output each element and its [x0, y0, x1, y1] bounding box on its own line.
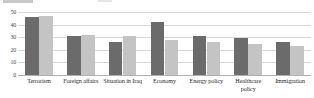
bar-group	[144, 12, 186, 75]
bar	[123, 36, 137, 75]
bar	[109, 42, 123, 75]
bar-group	[185, 12, 227, 75]
x-axis-category-label: Terrorism	[18, 77, 60, 85]
bar	[165, 40, 179, 75]
y-axis-tick-label: 40	[10, 22, 16, 28]
legend-swatch-cropped	[3, 0, 33, 3]
gridline: 0	[18, 75, 311, 76]
bar-group	[60, 12, 102, 75]
bar	[39, 16, 53, 75]
y-axis-tick-label: 20	[10, 47, 16, 53]
plot-area: 01020304050	[18, 12, 311, 75]
bar-group	[269, 12, 311, 75]
bar	[67, 36, 81, 75]
x-axis-category-label: Immigration	[269, 77, 311, 85]
bar	[193, 36, 207, 75]
bar	[25, 17, 39, 75]
bar	[207, 42, 221, 75]
x-axis-category-label: Situation in Iraq	[102, 77, 144, 85]
bar	[290, 46, 304, 75]
bar-chart: 01020304050 TerrorismForeign affairsSitu…	[0, 0, 314, 98]
x-axis-category-label: Healthcare policy	[227, 77, 269, 92]
x-axis-category-label: Foreign affairs	[60, 77, 102, 85]
bar	[276, 42, 290, 75]
y-axis-tick-label: 10	[10, 59, 16, 65]
y-axis-tick-label: 30	[10, 34, 16, 40]
bar-group	[227, 12, 269, 75]
bar	[151, 22, 165, 75]
bar-group	[102, 12, 144, 75]
bar	[248, 44, 262, 76]
x-axis-category-label: Economy	[144, 77, 186, 85]
bars-layer	[18, 12, 311, 75]
bar	[234, 38, 248, 75]
bar	[81, 35, 95, 75]
y-axis-tick-label: 50	[10, 9, 16, 15]
x-axis-labels: TerrorismForeign affairsSituation in Ira…	[18, 77, 311, 98]
y-axis-tick-label: 0	[13, 72, 16, 78]
bar-group	[18, 12, 60, 75]
legend-swatch-cropped-secondary	[98, 0, 112, 2]
x-axis-category-label: Energy policy	[185, 77, 227, 85]
